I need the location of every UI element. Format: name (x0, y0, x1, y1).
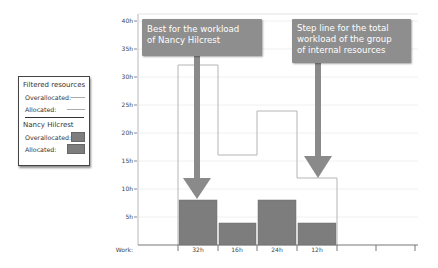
y-ticks (134, 21, 137, 217)
callout-right-line-3: of internal resources (297, 45, 406, 56)
annotation-callout-step-line: Step line for the total workload of the … (292, 19, 411, 63)
x-label-col-3: 24h (271, 246, 283, 253)
legend-entry-nancy-allocated: Allocated: (23, 143, 86, 155)
legend-label: Overallocated: (25, 94, 71, 101)
bar-col-3[interactable] (258, 200, 296, 245)
y-tick-5h: 5h (125, 213, 133, 220)
bar-col-2[interactable] (219, 223, 256, 245)
y-tick-30h: 30h (122, 73, 134, 80)
legend-label: Allocated: (25, 106, 56, 113)
bars-nancy-hilcrest (179, 200, 336, 245)
callout-left-line-1: Best for the workload (147, 24, 257, 35)
legend-label: Overallocated: (25, 134, 71, 141)
bar-col-1[interactable] (179, 200, 217, 245)
y-tick-40h: 40h (122, 17, 134, 24)
x-label-col-4: 12h (311, 246, 323, 253)
bar-col-4[interactable] (298, 223, 336, 245)
chart-legend: Filtered resources Overallocated: Alloca… (18, 76, 90, 166)
x-label-col-2: 16h (231, 246, 243, 253)
y-tick-10h: 10h (122, 185, 134, 192)
legend-entry-filtered-allocated: Allocated: (23, 103, 86, 115)
legend-group-nancy-hilcrest: Nancy Hilcrest (23, 120, 86, 131)
legend-group-filtered-resources: Filtered resources (23, 80, 86, 91)
legend-label: Allocated: (25, 146, 56, 153)
y-tick-15h: 15h (122, 157, 134, 164)
legend-entry-nancy-overallocated: Overallocated: (23, 131, 86, 143)
callout-left-line-2: of Nancy Hilcrest (147, 35, 257, 46)
x-tick-labels: 32h 16h 24h 12h (192, 246, 323, 253)
line-swatch-icon (71, 97, 85, 98)
box-swatch-icon (71, 132, 85, 142)
callout-right-line-2: workload of the group (297, 34, 406, 45)
legend-entry-filtered-overallocated: Overallocated: (23, 91, 86, 103)
y-tick-labels: 40h 35h 30h 25h 20h 15h 10h 5h (122, 17, 134, 220)
legend-divider (25, 117, 84, 118)
line-swatch-icon (67, 109, 85, 110)
arrow-down-icon-right (304, 63, 332, 178)
y-tick-35h: 35h (122, 45, 134, 52)
annotation-callout-nancy: Best for the workload of Nancy Hilcrest (142, 19, 262, 56)
callout-right-line-1: Step line for the total (297, 23, 406, 34)
x-ticks (178, 245, 415, 251)
x-axis-label: Work: (116, 246, 133, 253)
x-label-col-1: 32h (192, 246, 204, 253)
y-tick-25h: 25h (122, 101, 134, 108)
box-swatch-icon (67, 144, 85, 154)
y-tick-20h: 20h (122, 129, 134, 136)
